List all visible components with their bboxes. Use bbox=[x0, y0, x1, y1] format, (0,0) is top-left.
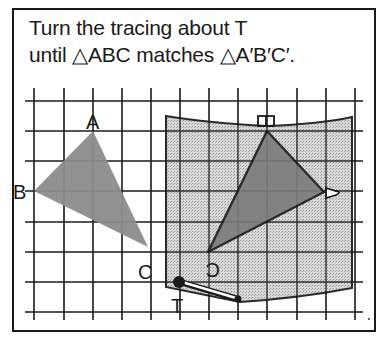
label-a: A bbox=[86, 111, 100, 133]
label-c: C bbox=[138, 261, 152, 283]
rotation-diagram: A B C C T bbox=[0, 0, 384, 345]
label-t: T bbox=[171, 295, 183, 317]
speck bbox=[368, 318, 370, 320]
label-a-prime bbox=[258, 116, 274, 126]
label-b: B bbox=[13, 181, 26, 203]
triangle-abc bbox=[34, 131, 148, 247]
pivot-point-t[interactable] bbox=[173, 276, 185, 288]
label-c-prime: C bbox=[206, 259, 220, 281]
